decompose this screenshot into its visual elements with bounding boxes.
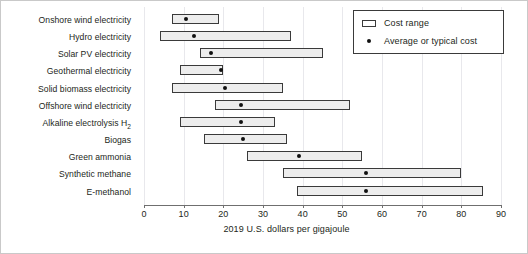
- average-cost-dot: [223, 86, 227, 90]
- x-axis-title: 2019 U.S. dollars per gigajoule: [1, 224, 528, 234]
- category-label: Offshore wind electricity: [39, 101, 131, 111]
- category-label: Green ammonia: [69, 152, 131, 162]
- cost-range-bar: [247, 151, 362, 161]
- average-cost-dot: [209, 51, 213, 55]
- x-tick-label-60: 60: [377, 209, 387, 219]
- category-label: Hydro electricity: [69, 32, 131, 42]
- x-axis-title-text: 2019 U.S. dollars per gigajoule: [180, 224, 349, 234]
- category-label: Biogas: [104, 135, 131, 145]
- average-cost-dot-icon: [362, 38, 376, 45]
- category-label: Onshore wind electricity: [39, 15, 131, 25]
- x-tick-label-80: 80: [456, 209, 466, 219]
- cost-range-bar: [180, 65, 224, 75]
- cost-range-bar: [180, 117, 275, 127]
- legend-item-cost-range: Cost range: [362, 16, 429, 30]
- category-label: Solid biomass electricity: [38, 84, 131, 94]
- cost-range-bar: [160, 31, 291, 41]
- cost-range-bar: [172, 14, 220, 24]
- average-cost-dot-glyph: [367, 39, 371, 43]
- chart-legend: Cost range Average or typical cost: [353, 10, 504, 54]
- x-tick-label-0: 0: [141, 209, 146, 219]
- x-tick-90: [501, 205, 502, 208]
- cost-range-bar: [297, 186, 483, 196]
- cost-range-bar: [283, 168, 462, 178]
- average-cost-dot: [241, 137, 245, 141]
- x-tick-label-90: 90: [496, 209, 506, 219]
- x-tick-label-10: 10: [179, 209, 189, 219]
- legend-item-average-cost: Average or typical cost: [362, 34, 477, 48]
- legend-label-average-cost: Average or typical cost: [384, 36, 477, 46]
- x-axis-line: [144, 205, 501, 206]
- average-cost-dot: [219, 68, 223, 72]
- x-tick-label-50: 50: [337, 209, 347, 219]
- average-cost-dot: [239, 103, 243, 107]
- x-tick-label-40: 40: [298, 209, 308, 219]
- average-cost-dot: [192, 34, 196, 38]
- category-label: Solar PV electricity: [58, 49, 131, 59]
- category-label: Geothermal electricity: [47, 66, 131, 76]
- category-label: Alkaline electrolysis H2: [43, 118, 131, 132]
- cost-range-bar: [215, 100, 350, 110]
- average-cost-dot: [297, 154, 301, 158]
- gridline-0: [144, 7, 145, 205]
- legend-label-cost-range: Cost range: [384, 18, 429, 28]
- average-cost-dot: [239, 120, 243, 124]
- x-tick-label-20: 20: [218, 209, 228, 219]
- average-cost-dot: [184, 17, 188, 21]
- average-cost-dot: [364, 171, 368, 175]
- x-tick-label-30: 30: [258, 209, 268, 219]
- cost-range-bar: [200, 48, 323, 58]
- category-label: E-methanol: [87, 187, 131, 197]
- category-label: Synthetic methane: [59, 169, 131, 179]
- x-tick-label-70: 70: [417, 209, 427, 219]
- cost-range-swatch-icon: [362, 20, 376, 27]
- average-cost-dot: [364, 189, 368, 193]
- figure-container: 0102030405060708090Onshore wind electric…: [0, 0, 528, 254]
